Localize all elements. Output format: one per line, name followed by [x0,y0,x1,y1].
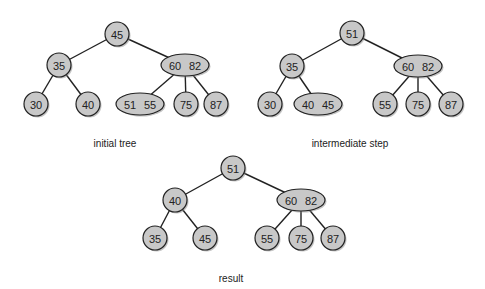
node-key: 51 [124,99,136,111]
node-key: 55 [379,99,391,111]
tree-intermediate: 51356082304045557587 [258,21,465,118]
node-key: 40 [82,99,94,111]
node-key: 82 [189,60,201,72]
tree-node: 6082 [277,189,327,213]
tree-node: 75 [406,92,432,118]
tree-node: 45 [193,226,219,252]
tree-node: 45 [105,22,131,48]
node-key: 60 [402,61,414,73]
node-key: 75 [412,99,424,111]
tree-node: 87 [321,226,347,252]
node-key: 87 [327,233,339,245]
caption-intermediate: intermediate step [312,138,389,149]
tree-diagram: 4535608230405155758751356082304045557587… [0,0,485,289]
node-key: 82 [305,195,317,207]
node-key: 40 [169,195,181,207]
node-key: 60 [169,60,181,72]
tree-node: 30 [24,92,50,118]
node-key: 60 [285,195,297,207]
node-key: 55 [144,99,156,111]
tree-node: 5155 [116,93,166,117]
tree-initial: 45356082304051557587 [24,22,230,118]
node-key: 30 [264,99,276,111]
tree-node: 30 [258,92,284,118]
tree-node: 6082 [394,55,444,79]
caption-initial: initial tree [94,138,137,149]
tree-node: 35 [47,53,73,79]
node-key: 30 [30,99,42,111]
node-key: 40 [302,99,314,111]
node-key: 45 [322,99,334,111]
tree-node: 35 [280,54,306,80]
node-key: 87 [210,99,222,111]
tree-node: 55 [255,226,281,252]
tree-node: 40 [163,188,189,214]
node-key: 75 [295,233,307,245]
tree-node: 4045 [294,93,344,117]
tree-node: 6082 [161,54,211,78]
node-key: 35 [53,60,65,72]
caption-result: result [219,273,244,284]
node-key: 55 [261,233,273,245]
node-key: 75 [180,99,192,111]
tree-node: 75 [289,226,315,252]
tree-result: 514060823545557587 [143,156,347,252]
node-key: 82 [422,61,434,73]
edges-layer [36,33,451,238]
tree-node: 75 [174,92,200,118]
tree-node: 87 [439,92,465,118]
node-key: 35 [149,233,161,245]
tree-node: 55 [373,92,399,118]
node-key: 51 [227,163,239,175]
node-key: 45 [111,29,123,41]
tree-node: 51 [340,21,366,47]
node-key: 87 [445,99,457,111]
tree-node: 87 [204,92,230,118]
tree-node: 40 [76,92,102,118]
node-key: 35 [286,61,298,73]
node-key: 51 [346,28,358,40]
tree-node: 35 [143,226,169,252]
tree-node: 51 [221,156,247,182]
node-key: 45 [199,233,211,245]
